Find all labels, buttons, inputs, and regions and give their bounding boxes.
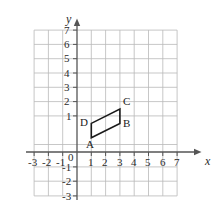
vertex-label-b: B (123, 118, 130, 129)
y-tick-label-7: 7 (64, 25, 70, 36)
y-tick-label--2: -2 (62, 176, 71, 187)
x-tick-label-3: 3 (117, 157, 123, 168)
x-tick-label-5: 5 (145, 157, 151, 168)
vertex-label-c: C (123, 96, 130, 107)
x-tick-label-2: 2 (102, 157, 108, 168)
vertex-label-d: D (80, 117, 88, 128)
x-tick-label--2: -2 (42, 157, 51, 168)
y-tick-label-2: 2 (64, 96, 70, 107)
coordinate-plane-svg (0, 0, 224, 213)
y-tick-label--1: -1 (62, 162, 71, 173)
y-tick-label-6: 6 (64, 39, 70, 50)
coordinate-grid-figure: -3 -2 -1 1 2 3 4 5 6 7 0 7 6 5 4 3 2 1 -… (0, 0, 224, 213)
vertex-label-a: A (86, 139, 94, 150)
grid-lines-vertical (34, 30, 177, 196)
x-axis (26, 149, 202, 155)
y-tick-label--3: -3 (62, 191, 71, 202)
y-axis-arrowhead (74, 19, 80, 27)
x-tick-label--3: -3 (28, 157, 37, 168)
y-tick-label-5: 5 (64, 53, 70, 64)
x-tick-label-1: 1 (88, 157, 94, 168)
y-tick-label-1: 1 (66, 111, 72, 122)
x-tick-label-7: 7 (174, 157, 180, 168)
x-axis-label: x (205, 155, 210, 167)
x-tick-label-4: 4 (131, 157, 137, 168)
x-tick-label-6: 6 (160, 157, 166, 168)
y-axis (74, 19, 80, 201)
y-tick-label-4: 4 (64, 68, 70, 79)
y-tick-label-3: 3 (64, 82, 70, 93)
x-axis-arrowhead (194, 149, 202, 155)
y-axis-label: y (66, 13, 71, 25)
